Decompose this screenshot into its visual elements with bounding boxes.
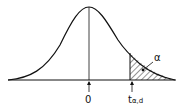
critical-value-subscript: α,d bbox=[132, 97, 143, 105]
tail-area-label: α bbox=[154, 53, 161, 63]
origin-arrowhead-icon bbox=[87, 81, 91, 85]
critical-arrowhead-icon bbox=[130, 81, 134, 85]
critical-value-label: tα,d bbox=[128, 95, 143, 106]
alpha-pointer-dot-icon bbox=[142, 69, 145, 72]
origin-label: 0 bbox=[85, 95, 91, 105]
shaded-tail-area bbox=[130, 53, 175, 80]
